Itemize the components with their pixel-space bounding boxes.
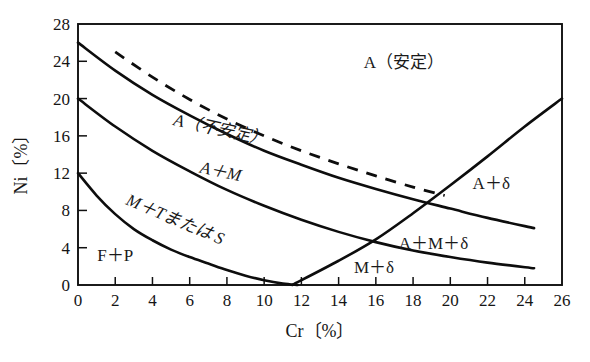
y-tick-label: 24 [53,52,71,71]
y-tick-label: 0 [62,276,71,295]
x-axis-ticks [115,277,525,285]
x-tick-label: 4 [148,291,157,310]
phase-diagram-svg: 02468101214161820222426 0481216202428 A（… [0,0,590,362]
region-label-f-plus-p: F＋P [97,246,133,265]
region-label-m-plus-delta: M＋δ [354,258,394,277]
x-tick-label: 22 [479,291,496,310]
x-tick-label: 12 [293,291,310,310]
phase-diagram-figure: 02468101214161820222426 0481216202428 A（… [0,0,590,362]
y-tick-label: 8 [62,201,71,220]
y-tick-label: 12 [53,164,70,183]
region-label-a-plus-delta: A＋δ [473,174,510,193]
x-tick-label: 6 [185,291,194,310]
x-tick-label: 0 [74,291,83,310]
x-axis-title: Cr〔%〕 [286,321,355,341]
x-tick-label: 24 [516,291,534,310]
y-tick-label: 28 [53,15,70,34]
x-tick-label: 16 [367,291,384,310]
region-label-a-plus-m: A＋M [197,158,243,186]
region-label-m-plus-t-or-s: M＋Tまたは S [122,190,227,249]
y-axis-tick-labels: 0481216202428 [53,15,71,295]
x-axis-tick-labels: 02468101214161820222426 [74,291,571,310]
region-label-a-plus-m-plus-delta: A＋M＋δ [399,234,468,253]
x-tick-label: 8 [223,291,232,310]
y-tick-label: 4 [62,239,71,258]
x-tick-label: 2 [111,291,120,310]
x-tick-label: 18 [405,291,422,310]
x-tick-label: 20 [442,291,459,310]
y-axis-title: Ni〔%〕 [11,126,31,195]
y-tick-label: 16 [53,127,70,146]
phase-boundary-curves [78,43,562,285]
x-tick-label: 14 [330,291,348,310]
x-tick-label: 10 [256,291,273,310]
x-tick-label: 26 [554,291,571,310]
phase-boundary-austenite-unstable-boundary [115,52,444,196]
y-axis-ticks [78,61,87,247]
y-tick-label: 20 [53,90,70,109]
region-label-a-stable: A（安定） [364,53,444,72]
